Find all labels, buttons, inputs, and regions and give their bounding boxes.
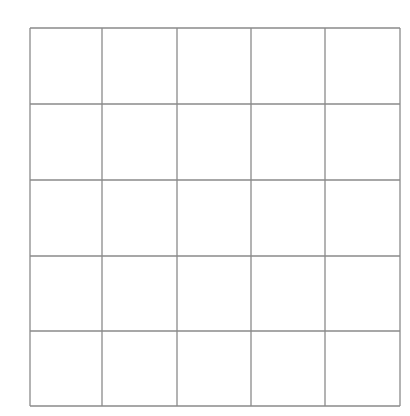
grid-cell-r1-c4 [325, 104, 400, 180]
grid-cell-r0-c2 [177, 28, 251, 104]
grid-cell-r1-c2 [177, 104, 251, 180]
grid-cell-r0-c1 [102, 28, 177, 104]
grid-cell-r3-c2 [177, 256, 251, 331]
grid-cell-r0-c4 [325, 28, 400, 104]
grid-cell-r3-c3 [251, 256, 325, 331]
grid-cell-r3-c1 [102, 256, 177, 331]
grid-cell-r3-c4 [325, 256, 400, 331]
grid-cell-r2-c1 [102, 180, 177, 256]
grid-cell-r2-c0 [30, 180, 102, 256]
grid-cell-r1-c3 [251, 104, 325, 180]
grid-cell-r3-c0 [30, 256, 102, 331]
grid-cell-r4-c3 [251, 331, 325, 406]
empty-grid-5x5 [0, 0, 410, 416]
grid-cell-r1-c1 [102, 104, 177, 180]
grid-cell-r0-c0 [30, 28, 102, 104]
grid-cell-r4-c0 [30, 331, 102, 406]
grid-cell-r2-c4 [325, 180, 400, 256]
grid-cell-r2-c3 [251, 180, 325, 256]
grid-cell-r4-c4 [325, 331, 400, 406]
grid-cell-r0-c3 [251, 28, 325, 104]
grid-cell-r1-c0 [30, 104, 102, 180]
grid-cell-r4-c1 [102, 331, 177, 406]
grid-cell-r4-c2 [177, 331, 251, 406]
grid-cell-r2-c2 [177, 180, 251, 256]
